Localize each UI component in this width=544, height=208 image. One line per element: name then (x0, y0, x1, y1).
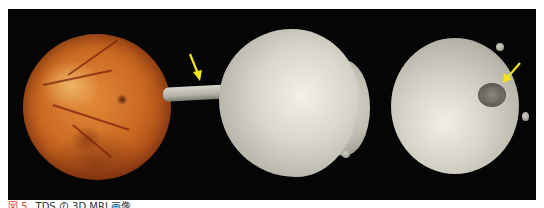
figure-caption: 図 5TDS の 3D MRI 画像 (8, 201, 131, 208)
caption-text: TDS の 3D MRI 画像 (36, 201, 131, 208)
posterior-lesion (478, 83, 506, 107)
globe-dimple (342, 150, 350, 158)
retinal-vessel (73, 124, 112, 157)
globe-bump (522, 112, 529, 121)
figure-number: 図 5 (8, 201, 28, 208)
retinal-vessel (43, 69, 112, 85)
mri-globe-posterior (391, 38, 519, 174)
retinal-vessel (53, 104, 130, 130)
figure-5: 図 5TDS の 3D MRI 画像 (0, 0, 544, 208)
fundus-photograph (23, 34, 171, 180)
arrow-icon (500, 60, 524, 86)
globe-bump (496, 43, 504, 51)
arrow-icon (186, 52, 206, 84)
